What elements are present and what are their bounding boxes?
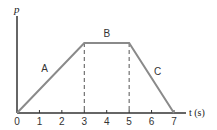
y-axis-label: p — [13, 3, 20, 15]
chart: p t (s) 01234567 ABC — [0, 0, 217, 130]
x-tick-label: 0 — [14, 116, 20, 127]
x-tick-label: 7 — [171, 116, 177, 127]
segment-label-c: C — [154, 66, 161, 77]
series-line — [17, 43, 174, 113]
x-tick-label: 1 — [37, 116, 43, 127]
x-tick-label: 2 — [59, 116, 65, 127]
segment-label-a: A — [41, 63, 48, 74]
x-axis-label: t (s) — [189, 107, 205, 119]
x-tick-label: 6 — [149, 116, 155, 127]
x-tick-label: 5 — [126, 116, 132, 127]
x-tick-label: 4 — [104, 116, 110, 127]
segment-label-b: B — [103, 28, 110, 39]
x-tick-label: 3 — [82, 116, 88, 127]
